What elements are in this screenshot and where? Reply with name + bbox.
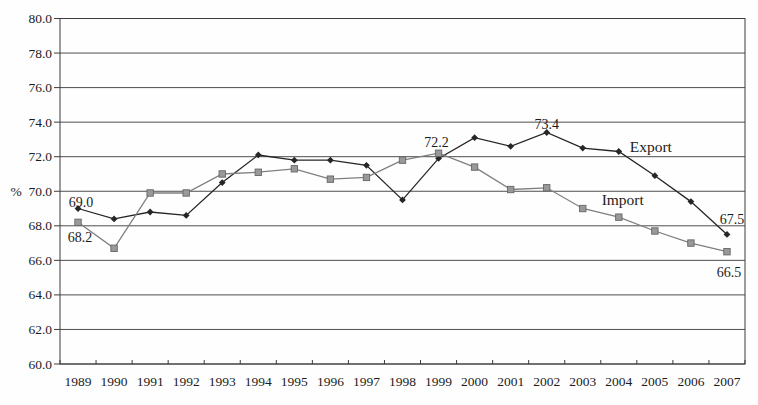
y-tick-label: 80.0 [28, 11, 52, 26]
import-marker [507, 186, 513, 192]
export-marker [615, 148, 622, 155]
x-tick-label: 1992 [173, 374, 200, 389]
x-tick-label: 1991 [137, 374, 164, 389]
import-marker [147, 190, 153, 196]
y-tick-label: 66.0 [28, 253, 52, 268]
import-marker [219, 171, 225, 177]
value-annotation: 66.5 [717, 265, 742, 280]
export-marker [291, 157, 298, 164]
x-tick-label: 1996 [317, 374, 344, 389]
x-tick-label: 1997 [353, 374, 380, 389]
x-tick-label: 2006 [677, 374, 704, 389]
import-marker [183, 190, 189, 196]
import-marker [75, 219, 81, 225]
y-tick-label: 78.0 [28, 46, 52, 61]
y-tick-label: 76.0 [28, 80, 52, 95]
x-tick-label: 2004 [605, 374, 632, 389]
import-marker [580, 205, 586, 211]
y-tick-label: 62.0 [28, 322, 52, 337]
export-marker [507, 143, 514, 150]
export-import-line-chart: 80.078.076.074.072.070.068.066.064.062.0… [0, 0, 758, 405]
y-axis-unit-label: % [10, 184, 21, 199]
chart-canvas: 80.078.076.074.072.070.068.066.064.062.0… [0, 0, 758, 405]
import-marker [363, 174, 369, 180]
import-marker [435, 150, 441, 156]
value-annotation: 69.0 [69, 195, 94, 210]
y-tick-label: 64.0 [28, 287, 52, 302]
import-marker [111, 245, 117, 251]
x-tick-label: 1993 [209, 374, 236, 389]
import-marker [471, 164, 477, 170]
x-tick-label: 2000 [461, 374, 488, 389]
import-marker [688, 240, 694, 246]
value-annotation: 68.2 [68, 230, 93, 245]
export-marker [579, 145, 586, 152]
series-inline-label: Export [630, 138, 673, 155]
value-annotation: 72.2 [424, 135, 449, 150]
x-tick-label: 1998 [389, 374, 416, 389]
import-marker [399, 157, 405, 163]
import-marker [652, 228, 658, 234]
y-tick-label: 70.0 [28, 184, 52, 199]
y-tick-label: 68.0 [28, 218, 52, 233]
value-annotation: 67.5 [720, 212, 745, 227]
import-marker [327, 176, 333, 182]
y-tick-label: 60.0 [28, 357, 52, 372]
export-marker [147, 209, 154, 216]
x-tick-label: 1994 [245, 374, 272, 389]
x-tick-label: 2007 [713, 374, 740, 389]
y-tick-label: 74.0 [28, 115, 52, 130]
y-tick-label: 72.0 [28, 149, 52, 164]
x-tick-label: 1990 [101, 374, 128, 389]
import-marker [291, 166, 297, 172]
value-annotation: 73.4 [534, 117, 559, 132]
x-tick-label: 1989 [65, 374, 92, 389]
x-tick-label: 2001 [497, 374, 524, 389]
import-marker [616, 214, 622, 220]
export-marker [327, 157, 334, 164]
import-marker [724, 249, 730, 255]
x-tick-label: 2003 [569, 374, 596, 389]
import-marker [255, 169, 261, 175]
x-tick-label: 1999 [425, 374, 452, 389]
x-tick-label: 2002 [533, 374, 560, 389]
import-marker [544, 185, 550, 191]
export-marker [471, 134, 478, 141]
x-tick-label: 1995 [281, 374, 308, 389]
x-tick-label: 2005 [641, 374, 668, 389]
export-marker [111, 215, 118, 222]
series-inline-label: Import [602, 191, 645, 208]
